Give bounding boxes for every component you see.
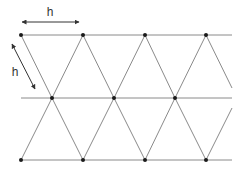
diagonal-dimension: h xyxy=(12,44,35,89)
diagonal-line xyxy=(21,35,52,98)
diagonal-line xyxy=(114,35,145,98)
diagonal-line xyxy=(83,35,114,98)
lattice-node xyxy=(50,96,54,100)
diagonal-line xyxy=(21,98,52,160)
diagonal-line xyxy=(52,98,83,160)
horizontal-dimension-label: h xyxy=(47,5,54,19)
diagonal-line xyxy=(175,35,206,98)
lattice-node xyxy=(143,158,147,162)
lattice-node xyxy=(19,158,23,162)
diagonal-line xyxy=(206,35,232,88)
lattice-node xyxy=(204,158,208,162)
diagonal-line xyxy=(83,98,114,160)
lattice-node xyxy=(19,33,23,37)
lattice-node xyxy=(143,33,147,37)
lattice-node xyxy=(204,33,208,37)
triangular-lattice-diagram: h h xyxy=(0,0,244,172)
diagonal-line xyxy=(206,108,232,160)
horizontal-dimension: h xyxy=(22,5,79,22)
lattice-node xyxy=(112,96,116,100)
diagonal-line xyxy=(145,98,175,160)
lattice-node xyxy=(173,96,177,100)
lattice-node xyxy=(81,158,85,162)
diagonal-line xyxy=(114,98,145,160)
diagonal-line xyxy=(52,35,83,98)
diagonal-line xyxy=(175,98,206,160)
diagonal-line xyxy=(145,35,175,98)
lattice-node xyxy=(81,33,85,37)
diagonal-dimension-label: h xyxy=(12,65,19,79)
diagram-svg: h h xyxy=(0,0,244,172)
